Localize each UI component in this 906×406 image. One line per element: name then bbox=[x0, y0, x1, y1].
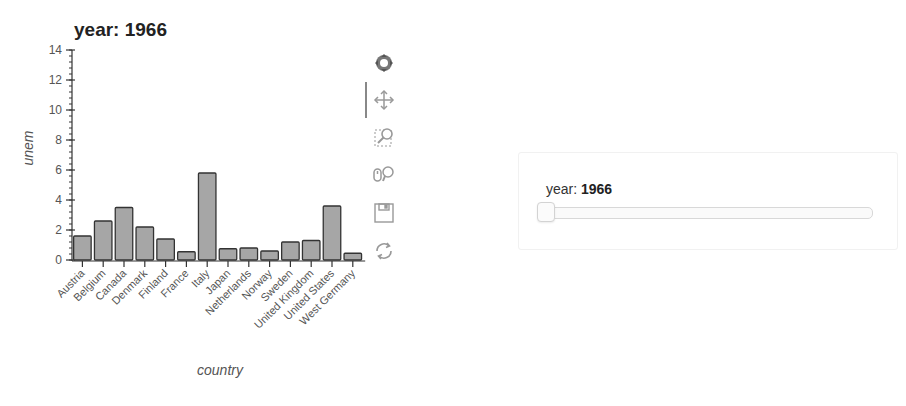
year-slider-widget: year: 1966 bbox=[518, 152, 898, 250]
y-tick-label: 8 bbox=[55, 133, 62, 147]
y-tick-label: 4 bbox=[55, 193, 62, 207]
y-tick-label: 2 bbox=[55, 223, 62, 237]
box-zoom-icon[interactable] bbox=[364, 122, 404, 152]
bar-italy[interactable] bbox=[198, 173, 216, 260]
bar-united-states[interactable] bbox=[323, 206, 341, 260]
bar-chart: 02468101214AustriaBelgiumCanadaDenmarkFi… bbox=[0, 0, 400, 360]
reset-icon[interactable] bbox=[364, 236, 404, 266]
y-tick-label: 12 bbox=[49, 73, 63, 87]
y-tick-label: 0 bbox=[55, 253, 62, 267]
x-axis-label: country bbox=[160, 362, 280, 378]
y-axis-label: unem bbox=[20, 128, 36, 168]
bar-west-germany[interactable] bbox=[344, 253, 362, 260]
pan-icon[interactable] bbox=[364, 85, 404, 115]
bar-france[interactable] bbox=[178, 252, 196, 260]
bar-norway[interactable] bbox=[261, 251, 279, 260]
wheel-zoom-icon[interactable] bbox=[364, 160, 404, 190]
save-icon[interactable] bbox=[364, 198, 404, 228]
bokeh-logo-icon[interactable] bbox=[364, 48, 404, 78]
slider-value: 1966 bbox=[581, 181, 612, 197]
bar-netherlands[interactable] bbox=[240, 248, 257, 260]
bar-japan[interactable] bbox=[219, 249, 237, 260]
bar-sweden[interactable] bbox=[282, 242, 300, 260]
slider-track[interactable] bbox=[545, 207, 873, 219]
bar-united-kingdom[interactable] bbox=[302, 241, 320, 261]
y-tick-label: 14 bbox=[49, 43, 63, 57]
bar-belgium[interactable] bbox=[94, 221, 112, 260]
y-tick-label: 6 bbox=[55, 163, 62, 177]
bar-canada[interactable] bbox=[115, 208, 133, 261]
bar-denmark[interactable] bbox=[136, 227, 154, 260]
slider-handle[interactable] bbox=[537, 202, 555, 222]
slider-title: year: 1966 bbox=[546, 181, 612, 197]
bar-finland[interactable] bbox=[157, 239, 175, 260]
bar-austria[interactable] bbox=[74, 236, 92, 260]
y-tick-label: 10 bbox=[49, 103, 63, 117]
slider-label: year: bbox=[546, 181, 581, 197]
